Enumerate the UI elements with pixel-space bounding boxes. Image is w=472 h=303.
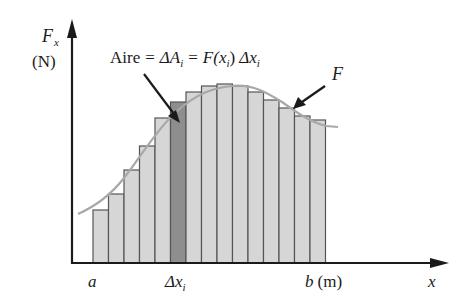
riemann-sum-diagram: Fx (N) Aire=ΔAi=F(xi)Δxi F a Δxi b(m) x — [0, 0, 472, 303]
annotation-pointer-line — [144, 74, 174, 114]
bar — [310, 120, 326, 263]
curve-label: F — [331, 64, 344, 84]
bar — [155, 118, 171, 263]
bar — [217, 84, 233, 263]
bar — [109, 194, 125, 263]
bar — [140, 146, 156, 263]
bar — [279, 108, 295, 263]
y-axis-unit: (N) — [32, 52, 56, 71]
bar — [248, 92, 264, 263]
x-label-delta-x: Δxi — [164, 272, 186, 293]
highlighted-bar — [171, 102, 187, 263]
x-label-a: a — [88, 272, 97, 291]
x-axis-arrowhead-icon — [430, 258, 449, 268]
curve-arrowhead-icon — [293, 97, 306, 109]
bar — [264, 100, 280, 263]
y-axis-label: Fx — [41, 26, 59, 48]
bar — [233, 86, 249, 263]
area-equation: Aire=ΔAi=F(xi)Δxi — [110, 48, 260, 69]
x-label-b: b(m) — [305, 272, 342, 291]
bar — [202, 86, 218, 263]
bar — [186, 92, 202, 263]
curve-pointer-line — [302, 86, 325, 102]
y-axis-arrowhead-icon — [67, 19, 77, 38]
bar — [295, 116, 311, 263]
bar — [93, 210, 109, 263]
bar — [124, 170, 140, 263]
x-axis-label: x — [427, 272, 436, 291]
